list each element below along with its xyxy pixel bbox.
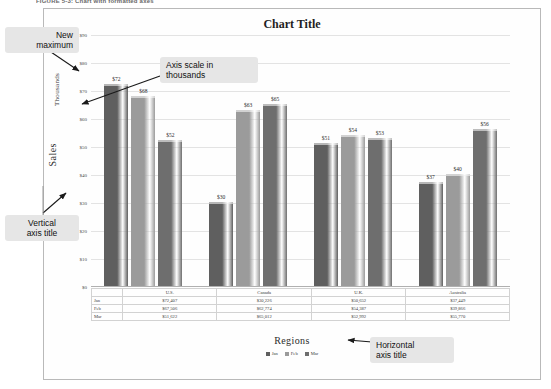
bar-top-highlight	[236, 110, 260, 112]
bar-data-label: $51	[308, 135, 344, 141]
bar-group-uk: $51$54$53	[301, 35, 406, 286]
horizontal-axis-title[interactable]: Regions	[44, 335, 540, 346]
vertical-axis-title[interactable]: Sales	[47, 143, 58, 167]
bar-mar[interactable]	[368, 138, 392, 286]
table-row-header: Mar	[92, 313, 123, 321]
legend-item-feb[interactable]: Feb	[285, 351, 298, 356]
vertical-axis-tick-label: $50	[80, 145, 88, 150]
horizontal-axis-line	[91, 286, 510, 287]
table-cell: $72,407	[123, 297, 217, 305]
bar-data-label: $72	[98, 76, 134, 82]
bar-jan[interactable]	[104, 84, 128, 286]
table-cell: $37,449	[406, 297, 510, 305]
table-cell: $67,506	[123, 305, 217, 313]
legend-item-mar[interactable]: Mar	[305, 351, 319, 356]
bar-mar[interactable]	[263, 104, 287, 286]
bar-group-australia: $37$40$56	[405, 35, 510, 286]
table-row: Feb$67,506$62,774$54,387$39,866	[92, 305, 510, 313]
callout-vertical-axis: Vertical axis title	[5, 215, 79, 241]
table-row-header: Feb	[92, 305, 123, 313]
bar-top-highlight	[368, 138, 392, 140]
bar-series-container: $72$68$52$30$63$65$51$54$53$37$40$56	[91, 35, 510, 286]
vertical-axis-tick-label: $0	[82, 285, 87, 290]
bar-feb[interactable]	[446, 174, 470, 286]
bar-feb[interactable]	[341, 135, 365, 286]
table-column-header: U.S.	[123, 289, 217, 297]
bar-data-label: $56	[467, 121, 503, 127]
chart-data-table: U.S.CanadaU.K.AustraliaJan$72,407$30,226…	[91, 288, 510, 321]
table-cell: $51,622	[123, 313, 217, 321]
table-corner-cell	[92, 289, 123, 297]
bar-slot: $51	[314, 35, 338, 286]
table-cell: $52,992	[311, 313, 405, 321]
bar-top-highlight	[104, 84, 128, 86]
bar-jan[interactable]	[314, 143, 338, 286]
bar-feb[interactable]	[236, 110, 260, 286]
bar-jan[interactable]	[209, 202, 233, 286]
bar-data-label: $37	[413, 174, 449, 180]
chart-container[interactable]: Chart Title $90$80$70$60$50$40$30$20$10$…	[43, 8, 541, 380]
legend-swatch-icon	[266, 352, 270, 356]
table-cell: $50,652	[311, 297, 405, 305]
table-cell: $62,774	[217, 305, 311, 313]
legend-label: Jan	[272, 351, 278, 356]
bar-top-highlight	[314, 143, 338, 145]
legend-swatch-icon	[285, 352, 289, 356]
vertical-axis-tick-label: $80	[80, 61, 88, 66]
legend-label: Mar	[311, 351, 319, 356]
bar-data-label: $53	[362, 130, 398, 136]
bar-mar[interactable]	[473, 129, 497, 286]
bar-data-label: $40	[440, 166, 476, 172]
bar-slot: $37	[419, 35, 443, 286]
vertical-axis-tick-label: $70	[80, 89, 88, 94]
bar-mar[interactable]	[158, 140, 182, 286]
table-column-header: Australia	[406, 289, 510, 297]
vertical-axis-tick-label: $30	[80, 201, 88, 206]
table-column-header: U.K.	[311, 289, 405, 297]
table-cell: $65,012	[217, 313, 311, 321]
table-cell: $55,770	[406, 313, 510, 321]
legend-item-jan[interactable]: Jan	[266, 351, 278, 356]
bar-slot: $65	[263, 35, 287, 286]
callout-new-maximum: New maximum	[5, 27, 79, 53]
table-row: Jan$72,407$30,226$50,652$37,449	[92, 297, 510, 305]
bar-top-highlight	[263, 104, 287, 106]
vertical-axis-tick-label: $20	[80, 229, 88, 234]
vertical-axis-tick-label: $10	[80, 257, 88, 262]
bar-top-highlight	[131, 96, 155, 98]
legend-label: Feb	[291, 351, 298, 356]
axis-units-label: Thousands	[53, 73, 61, 106]
vertical-axis-tick-label: $60	[80, 117, 88, 122]
bar-slot: $68	[131, 35, 155, 286]
bar-top-highlight	[158, 140, 182, 142]
callout-horizontal-axis: Horizontal axis title	[370, 337, 454, 363]
plot-area[interactable]: $90$80$70$60$50$40$30$20$10$0 Thousands …	[91, 35, 510, 287]
vertical-axis-tick-label: $90	[80, 33, 88, 38]
bar-feb[interactable]	[131, 96, 155, 286]
bar-slot: $72	[104, 35, 128, 286]
bar-slot: $54	[341, 35, 365, 286]
table-cell: $30,226	[217, 297, 311, 305]
bar-jan[interactable]	[419, 182, 443, 286]
bar-data-label: $30	[203, 194, 239, 200]
bar-top-highlight	[419, 182, 443, 184]
table-column-header: Canada	[217, 289, 311, 297]
bar-data-label: $63	[230, 102, 266, 108]
table-header-row: U.S.CanadaU.K.Australia	[92, 289, 510, 297]
bar-data-label: $68	[125, 88, 161, 94]
legend-swatch-icon	[305, 352, 309, 356]
table-row-header: Jan	[92, 297, 123, 305]
chart-title[interactable]: Chart Title	[44, 17, 540, 32]
bar-top-highlight	[446, 174, 470, 176]
bar-slot: $56	[473, 35, 497, 286]
bar-slot: $53	[368, 35, 392, 286]
figure-caption: FIGURE 5-3: Chart with formatted axes	[36, 0, 154, 4]
bar-top-highlight	[209, 202, 233, 204]
bar-data-label: $65	[257, 96, 293, 102]
bar-top-highlight	[473, 129, 497, 131]
callout-axis-scale: Axis scale in thousands	[160, 57, 258, 83]
chart-legend[interactable]: JanFebMar	[44, 351, 540, 356]
table-row: Mar$51,622$65,012$52,992$55,770	[92, 313, 510, 321]
table-cell: $54,387	[311, 305, 405, 313]
bar-slot: $40	[446, 35, 470, 286]
